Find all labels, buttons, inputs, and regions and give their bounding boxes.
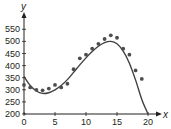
- data-point: [140, 77, 144, 81]
- data-point: [41, 88, 45, 92]
- y-tick-label: 500: [5, 36, 20, 46]
- y-axis-arrow-icon: [22, 12, 27, 18]
- data-points: [22, 33, 144, 92]
- y-tick-label: 200: [5, 109, 20, 119]
- x-tick-label: 0: [21, 117, 26, 127]
- data-point: [97, 42, 101, 46]
- data-point: [53, 83, 57, 87]
- y-tick-label: 550: [5, 24, 20, 34]
- x-tick-label: 20: [143, 117, 153, 127]
- data-point: [109, 33, 113, 37]
- y-axis-label: y: [20, 1, 27, 12]
- y-tick-label: 400: [5, 61, 20, 71]
- axes: [22, 12, 163, 117]
- x-axis-arrow-icon: [156, 112, 162, 117]
- x-axis-label: x: [162, 109, 169, 120]
- data-point: [115, 36, 119, 40]
- y-tick-label: 300: [5, 85, 20, 95]
- y-tick-label: 450: [5, 49, 20, 59]
- data-point: [47, 87, 51, 91]
- data-point: [28, 85, 32, 89]
- x-tick-label: 5: [52, 117, 57, 127]
- data-point: [121, 47, 125, 51]
- data-point: [59, 85, 63, 89]
- data-point: [90, 47, 94, 51]
- x-tick-label: 15: [112, 117, 122, 127]
- y-tick-label: 350: [5, 73, 20, 83]
- data-point: [35, 88, 39, 92]
- data-point: [127, 53, 131, 57]
- data-point: [66, 82, 70, 86]
- data-point: [78, 56, 82, 60]
- data-point: [72, 67, 76, 71]
- scatter-chart: 05101520200250300350400450500550 x y: [0, 0, 171, 129]
- data-point: [103, 37, 107, 41]
- fitted-curve: [24, 41, 148, 114]
- axis-ticks: 05101520200250300350400450500550: [5, 24, 153, 127]
- data-point: [22, 83, 26, 87]
- data-point: [134, 69, 138, 73]
- y-tick-label: 250: [5, 97, 20, 107]
- x-tick-label: 10: [81, 117, 91, 127]
- data-point: [84, 53, 88, 57]
